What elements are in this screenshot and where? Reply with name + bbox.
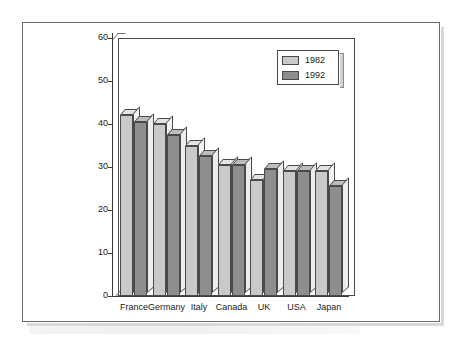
legend-label-1982: 1982 bbox=[305, 56, 325, 65]
bar-front-face bbox=[297, 171, 310, 296]
bar-uk-1982 bbox=[250, 180, 263, 296]
bar-front-face bbox=[329, 186, 342, 296]
chart-legend: 1982 1992 bbox=[277, 50, 339, 85]
y-tick-mark bbox=[108, 210, 112, 211]
bar-japan-1992 bbox=[329, 186, 342, 296]
bar-italy-1992 bbox=[199, 156, 212, 296]
legend-swatch-1982 bbox=[282, 56, 299, 65]
bar-usa-1992 bbox=[297, 171, 310, 296]
legend-entry-1992: 1992 bbox=[282, 69, 338, 82]
bar-front-face bbox=[167, 135, 180, 296]
bar-front-face bbox=[218, 165, 231, 296]
bar-germany-1992 bbox=[167, 135, 180, 296]
legend-entry-1982: 1982 bbox=[282, 54, 338, 67]
bar-front-face bbox=[120, 115, 133, 296]
legend-swatch-1992 bbox=[282, 71, 299, 80]
y-tick-mark bbox=[108, 81, 112, 82]
bar-usa-1982 bbox=[283, 171, 296, 296]
bar-canada-1982 bbox=[218, 165, 231, 296]
y-tick-mark bbox=[108, 253, 112, 254]
bars-layer bbox=[0, 0, 465, 341]
y-tick-mark bbox=[108, 124, 112, 125]
bar-uk-1992 bbox=[264, 169, 277, 296]
x-axis-labels: FranceGermanyItalyCanadaUKUSAJapan bbox=[0, 299, 465, 315]
bar-canada-1992 bbox=[232, 165, 245, 296]
bar-germany-1982 bbox=[153, 124, 166, 296]
bar-side-face bbox=[342, 177, 349, 293]
y-tick-mark bbox=[108, 296, 112, 297]
legend-label-1992: 1992 bbox=[305, 71, 325, 80]
bar-front-face bbox=[250, 180, 263, 296]
chart-legend-shadow bbox=[340, 53, 344, 88]
bar-japan-1982 bbox=[315, 171, 328, 296]
bar-chart: 0102030405060 FranceGermanyItalyCanadaUK… bbox=[0, 0, 465, 341]
bar-front-face bbox=[264, 169, 277, 296]
bar-front-face bbox=[185, 146, 198, 297]
bar-front-face bbox=[153, 124, 166, 296]
bar-front-face bbox=[315, 171, 328, 296]
bar-france-1982 bbox=[120, 115, 133, 296]
bar-front-face bbox=[232, 165, 245, 296]
y-tick-mark bbox=[108, 38, 112, 39]
bar-front-face bbox=[134, 122, 147, 296]
y-tick-mark bbox=[108, 167, 112, 168]
bar-france-1992 bbox=[134, 122, 147, 296]
bar-front-face bbox=[283, 171, 296, 296]
bar-front-face bbox=[199, 156, 212, 296]
bar-italy-1982 bbox=[185, 146, 198, 297]
x-label-japan: Japan bbox=[303, 303, 355, 312]
